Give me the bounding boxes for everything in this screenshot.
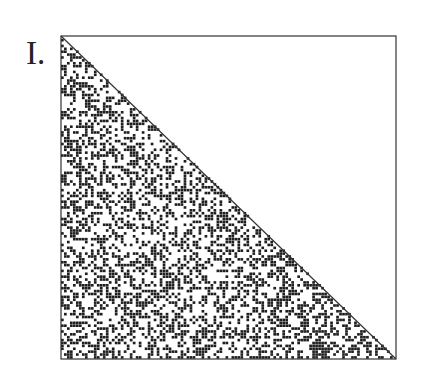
random-pixel-fill	[61, 39, 393, 359]
panel-label: I.	[26, 37, 45, 70]
triangular-matrix-plot	[60, 35, 398, 361]
diagonal-line	[61, 36, 396, 359]
